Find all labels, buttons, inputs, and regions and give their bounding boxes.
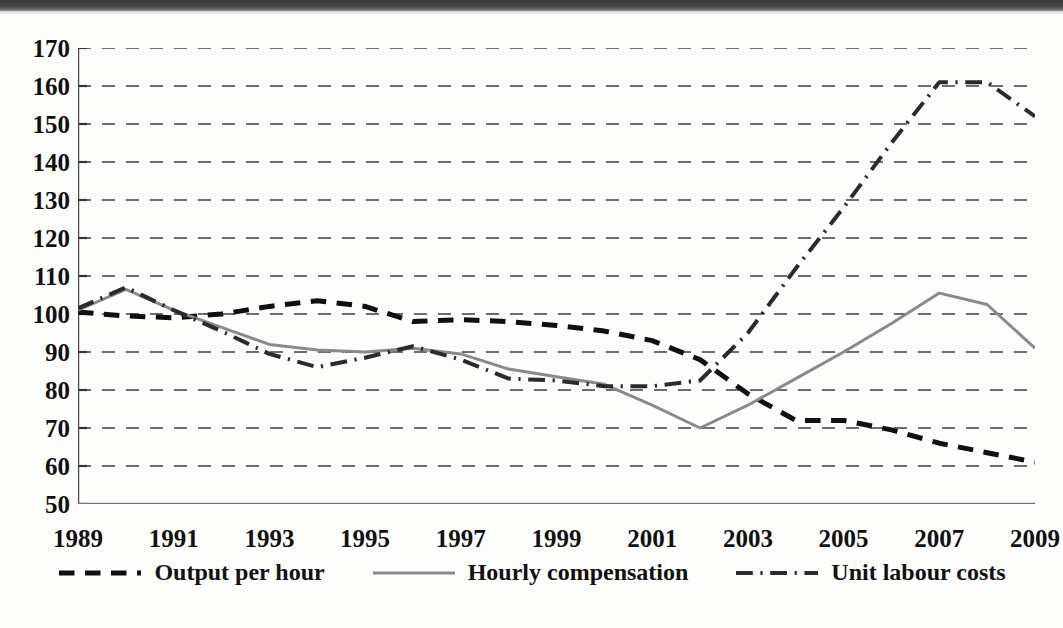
y-axis-tick-label: 70 <box>8 416 70 441</box>
dashed-line-marker <box>57 565 143 581</box>
y-axis-tick-label: 160 <box>8 74 70 99</box>
x-axis-tick-label: 1993 <box>244 526 294 551</box>
legend-item-2[interactable]: Hourly compensation <box>371 559 689 586</box>
x-axis-tick-label: 1989 <box>53 526 103 551</box>
x-axis-tick-label: 2001 <box>627 526 677 551</box>
y-axis-tick-label: 60 <box>8 454 70 479</box>
chart-legend: Output per hourHourly compensationUnit l… <box>0 559 1063 586</box>
y-axis-tick-label: 110 <box>8 264 70 289</box>
legend-item-1[interactable]: Output per hour <box>57 559 324 586</box>
y-axis-tick-label: 100 <box>8 302 70 327</box>
x-axis-tick-label: 1997 <box>436 526 486 551</box>
chart-figure: 1701601501401301201101009080706050 19891… <box>0 14 1063 628</box>
gridlines <box>78 48 1035 504</box>
legend-label: Hourly compensation <box>468 559 689 586</box>
series-line-2 <box>78 289 1035 428</box>
dash-dot-line-marker <box>734 565 820 581</box>
legend-item-3[interactable]: Unit labour costs <box>734 559 1005 586</box>
x-axis-tick-label: 1991 <box>149 526 199 551</box>
y-axis-tick-label: 130 <box>8 188 70 213</box>
x-axis-tick-label: 1999 <box>532 526 582 551</box>
y-axis-tick-label: 140 <box>8 150 70 175</box>
y-axis-tick-label: 90 <box>8 340 70 365</box>
x-axis-tick-label: 2003 <box>723 526 773 551</box>
legend-label: Unit labour costs <box>831 559 1005 586</box>
series-line-3 <box>78 82 1035 386</box>
data-series-layer <box>78 82 1035 462</box>
y-axis-tick-label: 150 <box>8 112 70 137</box>
legend-label: Output per hour <box>154 559 324 586</box>
scanned-page: 1701601501401301201101009080706050 19891… <box>0 0 1063 628</box>
y-axis-tick-label: 80 <box>8 378 70 403</box>
y-axis-tick-label: 120 <box>8 226 70 251</box>
x-axis-tick-label: 2005 <box>819 526 869 551</box>
axis-lines <box>78 48 1035 504</box>
x-axis-tick-label: 1995 <box>340 526 390 551</box>
x-axis-tick-label: 2007 <box>914 526 964 551</box>
y-axis-tick-label: 170 <box>8 36 70 61</box>
line-chart-svg <box>78 48 1035 504</box>
y-axis-tick-label: 50 <box>8 492 70 517</box>
solid-line-marker <box>371 565 457 581</box>
scan-edge-artifact <box>0 0 1063 12</box>
plot-area <box>78 48 1035 504</box>
x-axis-tick-label: 2009 <box>1010 526 1060 551</box>
